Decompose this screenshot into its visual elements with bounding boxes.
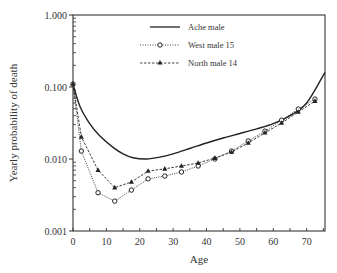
open-circle-marker-icon [163,174,167,178]
y-axis-title: Yearly probability of death [7,63,19,182]
legend-label-ache: Ache male [188,22,225,32]
series-line-west-male-15 [73,84,315,201]
series-group [71,72,326,203]
legend-label-north: North male 14 [188,58,238,68]
open-circle-marker-icon [129,188,133,192]
open-circle-marker-icon [179,170,183,174]
filled-triangle-marker-icon [129,179,134,184]
filled-triangle-marker-icon [96,167,101,172]
x-tick-label: 30 [168,236,178,247]
filled-triangle-marker-icon [158,60,163,65]
series-line-ache-male [73,72,325,159]
y-tick-label: 0.100 [45,82,68,93]
open-circle-marker-icon [158,43,162,47]
y-tick-label: 1.000 [45,10,68,21]
open-circle-marker-icon [79,149,83,153]
x-tick-label: 40 [202,236,212,247]
x-axis-title: Age [190,253,208,265]
legend: Ache male West male 15 North male 14 [140,22,238,68]
x-tick-label: 50 [235,236,245,247]
open-circle-marker-icon [113,199,117,203]
x-tick-label: 10 [101,236,111,247]
series-line-north-male-14 [73,84,315,188]
x-tick-label: 0 [71,236,76,247]
filled-triangle-marker-icon [162,166,167,171]
x-tick-label: 20 [135,236,145,247]
legend-label-west: West male 15 [188,40,234,50]
open-circle-marker-icon [146,177,150,181]
y-tick-label: 0.010 [45,154,68,165]
open-circle-marker-icon [96,191,100,195]
y-axis: 0.0010.0100.1001.000 [45,10,77,237]
x-tick-label: 70 [302,236,312,247]
y-tick-label: 0.001 [45,226,68,237]
mortality-chart: 0.0010.0100.1001.000 010203040506070 Ach… [0,0,337,273]
x-tick-label: 60 [268,236,278,247]
